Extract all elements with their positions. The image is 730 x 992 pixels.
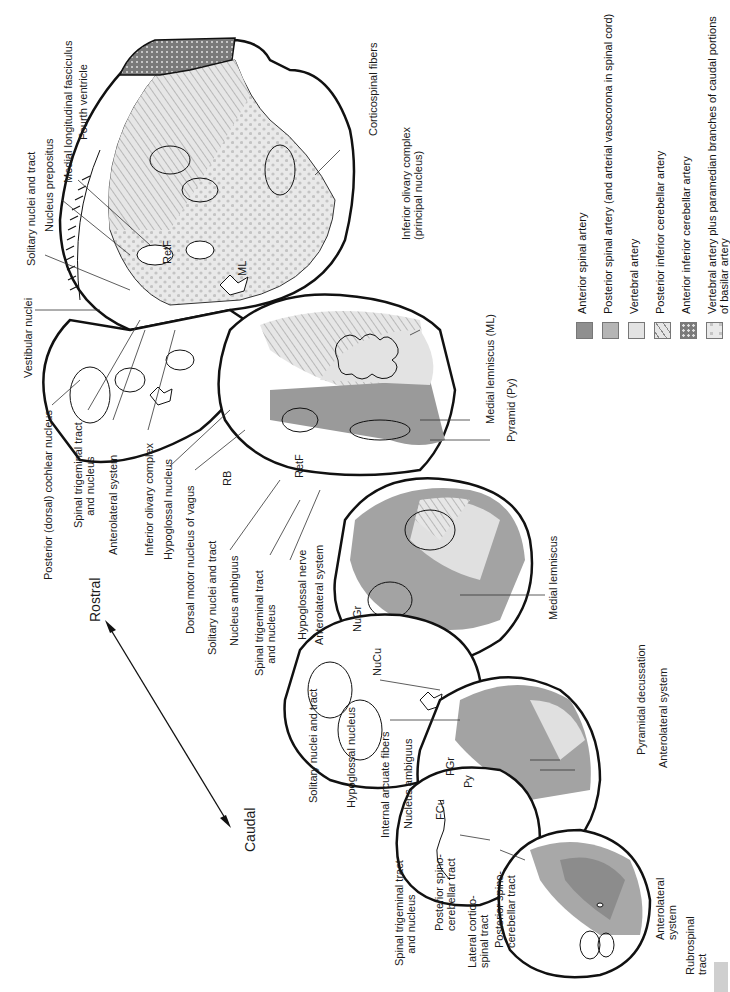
label-rb: RB [221,471,233,486]
label-vestibular-nuclei: Vestibular nuclei [22,298,34,378]
label-medial-lemniscus: Medial lemniscus [547,536,559,620]
section-olivary-medulla [219,294,455,475]
legend-item-vertebral-artery: Vertebral artery [628,239,645,339]
label-nucleus-ambiguus-1: Nucleus ambiguus [228,556,240,647]
arrowhead-rostral-icon [105,620,116,633]
legend-label: Posterior spinal artery (and arterial va… [602,14,614,314]
label-posterior-cochlear-nucleus: Posterior (dorsal) cochlear nucleus [42,410,54,580]
label-pyramid-py: Pyramid (Py) [505,378,517,442]
legend-item-aica: Anterior inferior cerebellar artery [680,156,697,339]
label-fourth-ventricle: Fourth ventricle [77,64,89,140]
label-medial-lemniscus-ml: Medial lemniscus (ML) [484,314,496,424]
label-anterolateral-system-3: Anterolateral system [657,668,669,768]
label-corticospinal-fibers: Corticospinal fibers [367,42,379,136]
label-dorsal-motor-nucleus-vagus: Dorsal motor nucleus of vagus [184,485,196,634]
label-inferior-olivary-principal: Inferior olivary complex (principal nucl… [400,127,424,240]
swatch-dark-dotted [680,322,697,339]
label-solitary-nuclei-tract-1: Solitary nuclei and tract [25,152,37,266]
swatch-solid-dark [576,322,593,339]
swatch-solid-light [628,322,645,339]
page-edge-marker [714,962,728,992]
legend-item-pica: Posterior inferior cerebellar artery [654,151,671,339]
label-hypoglossal-nucleus-1: Hypoglossal nucleus [162,459,174,560]
legend-item-anterior-spinal-artery: Anterior spinal artery [576,213,593,340]
label-retf-upper: RetF [161,240,173,264]
label-spinal-trigeminal-1: Spinal trigeminal tract and nucleus [72,422,96,528]
legend-item-posterior-spinal-artery: Posterior spinal artery (and arterial va… [602,14,619,339]
label-nucleus-ambiguus-2: Nucleus ambiguus [402,739,414,830]
label-retf-mid: RetF [293,454,305,478]
label-fcu: FCu [434,799,446,820]
label-spinal-trigeminal-2: Spinal trigeminal tract and nucleus [253,570,277,676]
legend-item-vertebral-plus-basilar: Vertebral artery plus paramedian branche… [706,16,730,339]
label-posterior-spinocerebellar-2: Posterior spino- cerebellar tract [493,871,517,948]
label-anterolateral-system-2: Anterolateral system [313,545,325,645]
label-internal-arcuate-fibers: Internal arcuate fibers [379,732,391,838]
swatch-diagonal-hatch [654,322,671,339]
label-spinal-trigeminal-3: Spinal trigeminal tract and nucleus [393,860,417,966]
label-anterolateral-system-1: Anterolateral system [107,455,119,555]
legend-label: Vertebral artery plus paramedian branche… [706,16,730,314]
arrowhead-caudal-icon [220,815,231,828]
legend-label: Anterior spinal artery [576,213,588,315]
label-anterolateral-system-4: Anterolateral system [654,878,678,940]
legend-label: Posterior inferior cerebellar artery [654,151,666,314]
label-caudal: Caudal [243,808,258,852]
label-rostral: Rostral [88,578,103,622]
label-fgr: FGr [444,757,456,776]
label-nucleus-prepositus: Nucleus prepositus [43,138,55,232]
label-nugr: NuGr [351,606,363,632]
label-hypoglossal-nerve: Hypoglossal nerve [296,550,308,641]
label-rubrospinal-tract: Rubrospinal tract [684,916,708,975]
label-pyramidal-decussation: Pyramidal decussation [635,644,647,755]
section-spinal-cord [499,830,650,977]
label-inferior-olivary-complex: Inferior olivary complex [143,443,155,556]
label-ml-upper: ML [236,261,248,276]
label-nucu: NuCu [371,648,383,676]
label-solitary-nuclei-tract-2: Solitary nuclei and tract [206,541,218,655]
legend-label: Vertebral artery [628,239,640,314]
label-posterior-spinocerebellar-1: Posterior spino- cerebellar tract [433,854,457,931]
swatch-solid-medium [602,322,619,339]
swatch-light-dotted [706,322,723,339]
label-py: Py [462,775,474,788]
label-solitary-nuclei-tract-3: Solitary nuclei and tract [307,689,319,803]
section-rostral-medulla [60,38,354,330]
label-medial-longitudinal-fasciculus: Medial longitudinal fasciculus [62,41,74,183]
legend-label: Anterior inferior cerebellar artery [680,156,692,314]
label-hypoglossal-nucleus-2: Hypoglossal nucleus [345,707,357,808]
label-lateral-corticospinal: Lateral cortico- spinal tract [466,895,490,968]
